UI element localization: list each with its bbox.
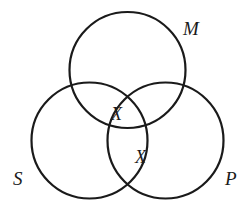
label-p: P — [224, 168, 237, 189]
label-s: S — [13, 168, 23, 189]
label-m: M — [182, 18, 200, 39]
circle-s — [32, 83, 148, 199]
mark-x-lower: X — [134, 147, 147, 167]
mark-x-upper: X — [110, 104, 123, 124]
circle-m — [70, 12, 186, 128]
circle-p — [108, 83, 224, 199]
venn-diagram: M S P X X — [0, 0, 248, 211]
